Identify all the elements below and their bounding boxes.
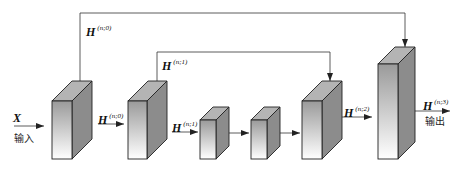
block-6 <box>378 47 415 159</box>
output-label-h: H(n;3) <box>423 96 448 114</box>
edge-label-h-n1-skip: H(n;1) <box>162 56 187 74</box>
block-front-face <box>128 101 147 159</box>
block-2 <box>128 81 167 159</box>
unet-diagram: X 输入 H(n;0) H(n;0) H(n;1) H(n;1) H(n;2) … <box>0 0 463 174</box>
edge-label-h-n2: H(n;2) <box>344 103 369 121</box>
edge-label-h-n1: H(n;1) <box>172 118 197 136</box>
block-5 <box>302 81 342 159</box>
input-label-text: 输入 <box>14 130 34 145</box>
block-front-face <box>302 101 322 159</box>
block-4 <box>251 107 280 159</box>
block-front-face <box>378 64 398 159</box>
edge-label-h-n0-skip: H(n;0) <box>86 22 111 40</box>
block-3 <box>200 107 229 159</box>
input-label-x: X <box>13 108 21 126</box>
block-front-face <box>52 101 72 159</box>
block-front-face <box>251 120 267 159</box>
block-side-face <box>398 47 415 159</box>
block-1 <box>52 81 92 159</box>
block-front-face <box>200 120 216 159</box>
diagram-canvas <box>0 0 463 174</box>
output-label-text: 输出 <box>425 113 445 128</box>
skip-connection-0 <box>80 13 405 81</box>
edge-label-h-n0: H(n;0) <box>98 110 123 128</box>
